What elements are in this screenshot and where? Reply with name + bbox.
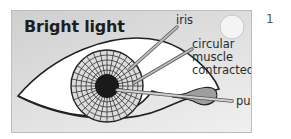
label-pupil: pupil <box>236 95 252 107</box>
sun-icon <box>220 15 244 39</box>
label-circular: circular <box>192 38 235 50</box>
iris <box>71 50 143 122</box>
label-muscle: muscle <box>192 51 233 63</box>
label-iris: iris <box>176 14 193 26</box>
diagram-panel: Bright light iris circular muscle contra… <box>11 10 252 133</box>
diagram-title: Bright light <box>24 17 125 36</box>
page-number: 1 <box>266 12 274 26</box>
label-contracted: contracted <box>192 64 252 76</box>
pupil <box>95 74 119 98</box>
